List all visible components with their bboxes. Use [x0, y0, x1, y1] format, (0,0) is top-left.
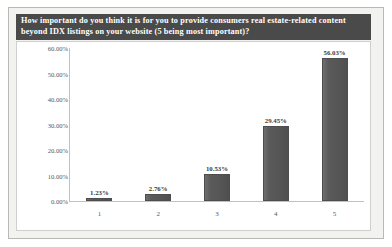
x-axis-tick-label: 3 — [215, 210, 219, 218]
bar[interactable] — [322, 58, 348, 201]
bar-slot: 56.03% — [305, 48, 364, 201]
bar[interactable] — [204, 174, 230, 201]
y-axis-tick-label: 10.00% — [22, 172, 68, 179]
bar-value-label: 2.76% — [149, 185, 168, 192]
x-axis-line — [69, 201, 364, 202]
bar-value-label: 1.23% — [90, 189, 109, 196]
y-axis-tick-label: 0.00% — [22, 198, 68, 205]
chart-panel: How important do you think it is for you… — [8, 7, 384, 239]
bar-value-label: 56.03% — [324, 49, 346, 56]
x-axis-tick-label: 5 — [333, 210, 337, 218]
y-axis-tick-label: 60.00% — [22, 45, 68, 52]
y-axis-tick-label: 30.00% — [22, 121, 68, 128]
bar-slot: 2.76% — [129, 48, 188, 201]
bar-value-label: 10.53% — [206, 165, 228, 172]
bar[interactable] — [145, 194, 171, 201]
bar-slot: 1.23% — [70, 48, 129, 201]
x-axis-tick-label: 1 — [98, 210, 102, 218]
x-axis-tick-label: 2 — [156, 210, 160, 218]
plot-area: 0.00%10.00%20.00%30.00%40.00%50.00%60.00… — [16, 41, 371, 231]
bar[interactable] — [263, 126, 289, 201]
bar-value-label: 29.45% — [265, 117, 287, 124]
chart-title: How important do you think it is for you… — [16, 14, 371, 40]
x-axis-tick-label: 4 — [274, 210, 278, 218]
bar-slot: 29.45% — [246, 48, 305, 201]
bar-slot: 10.53% — [188, 48, 247, 201]
bar[interactable] — [86, 198, 112, 201]
bars-layer: 1.23%2.76%10.53%29.45%56.03% — [70, 48, 364, 201]
y-axis-tick-label: 20.00% — [22, 147, 68, 154]
y-axis-tick-label: 40.00% — [22, 96, 68, 103]
y-axis-tick-label: 50.00% — [22, 70, 68, 77]
